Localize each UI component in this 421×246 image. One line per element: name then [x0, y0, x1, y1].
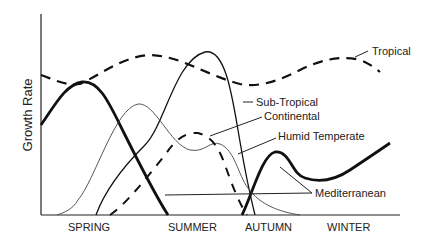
growth-rate-chart: Tropical Sub-Tropical Continental Humid … [0, 0, 421, 246]
series-sub-tropical [96, 52, 255, 215]
leader-tropical [355, 51, 368, 57]
series-tropical [41, 55, 380, 85]
leader-mediterranean-lower [165, 193, 312, 195]
label-mediterranean: Mediterranean [315, 187, 386, 199]
series-mediterranean-autumn [242, 143, 390, 215]
leader-humid-temperate [238, 138, 276, 154]
x-tick-winter: WINTER [327, 221, 370, 233]
label-tropical: Tropical [372, 45, 411, 57]
x-tick-spring: SPRING [68, 221, 110, 233]
y-axis-label: Growth Rate [20, 79, 35, 152]
x-tick-autumn: AUTUMN [245, 221, 292, 233]
x-tick-summer: SUMMER [168, 221, 217, 233]
label-continental: Continental [264, 110, 320, 122]
label-humid-temperate: Humid Temperate [278, 130, 365, 142]
label-sub-tropical: Sub-Tropical [256, 96, 318, 108]
